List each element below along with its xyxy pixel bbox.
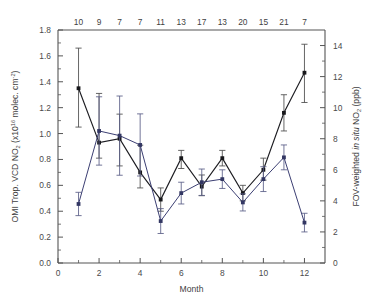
x-axis-ticklabel: 10 xyxy=(259,268,269,278)
series-omi-vcd-marker xyxy=(282,111,286,115)
series-insitu-ppb-marker xyxy=(241,201,245,205)
y-axis-left-ticklabel: 0.6 xyxy=(39,180,51,190)
x-axis-ticklabel: 6 xyxy=(179,268,184,278)
series-insitu-ppb-marker xyxy=(97,129,101,133)
series-insitu-ppb-marker xyxy=(220,177,224,181)
x-axis-ticklabel: 8 xyxy=(220,268,225,278)
y-axis-right-ticklabel: 0 xyxy=(333,258,338,268)
top-axis-count-label: 15 xyxy=(259,17,269,27)
series-insitu-ppb-marker xyxy=(118,134,122,138)
x-axis-title: Month xyxy=(180,284,204,294)
top-axis-count-label: 9 xyxy=(97,17,102,27)
series-insitu-ppb-marker xyxy=(282,155,286,159)
x-axis-ticklabel: 2 xyxy=(97,268,102,278)
series-omi-vcd-line xyxy=(79,73,305,200)
series-omi-vcd-marker xyxy=(77,86,81,90)
series-omi-vcd-marker xyxy=(159,198,163,202)
y-axis-right-ticklabel: 6 xyxy=(333,165,338,175)
top-axis-count-label: 13 xyxy=(218,17,228,27)
y-axis-right-title: FOV-weighted in situ NO2 (ppb) xyxy=(351,86,362,206)
top-axis-count-label: 7 xyxy=(302,17,307,27)
y-axis-right-ticklabel: 4 xyxy=(333,196,338,206)
top-axis-count-label: 10 xyxy=(74,17,84,27)
y-axis-left-ticklabel: 1.4 xyxy=(39,77,51,87)
series-insitu-ppb-line xyxy=(79,131,305,223)
y-axis-left-ticklabel: 1.2 xyxy=(39,103,51,113)
y-axis-left-ticklabel: 0.8 xyxy=(39,154,51,164)
series-insitu-ppb-marker xyxy=(261,177,265,181)
series-insitu-ppb-marker xyxy=(200,180,204,184)
series-insitu-ppb-marker xyxy=(138,143,142,147)
top-axis-count-label: 20 xyxy=(238,17,248,27)
series-omi-vcd-marker xyxy=(303,71,307,75)
y-axis-left-ticklabel: 1.8 xyxy=(39,25,51,35)
y-axis-left-ticklabel: 0.4 xyxy=(39,206,51,216)
series-insitu-ppb-marker xyxy=(159,219,163,223)
top-axis-count-label: 17 xyxy=(197,17,207,27)
y-axis-left-ticklabel: 1.6 xyxy=(39,51,51,61)
x-axis-ticklabel: 12 xyxy=(300,268,310,278)
series-omi-vcd-marker xyxy=(220,156,224,160)
series-insitu-ppb-marker xyxy=(179,191,183,195)
top-axis-count-label: 11 xyxy=(156,17,165,27)
y-axis-right-ticklabel: 12 xyxy=(333,72,343,82)
y-axis-left-ticklabel: 0.0 xyxy=(39,258,51,268)
y-axis-left-ticklabel: 0.2 xyxy=(39,232,51,242)
top-axis-count-label: 7 xyxy=(138,17,143,27)
series-omi-vcd-marker xyxy=(179,156,183,160)
x-axis-ticklabel: 4 xyxy=(138,268,143,278)
top-axis-count-label: 21 xyxy=(279,17,289,27)
top-axis-count-label: 7 xyxy=(117,17,122,27)
series-insitu-ppb-marker xyxy=(303,221,307,225)
top-axis-count-label: 13 xyxy=(177,17,187,27)
y-axis-left-ticklabel: 1.0 xyxy=(39,129,51,139)
y-axis-left-title: OMI Trop. VCD NO2 (x1016 molec. cm-2) xyxy=(10,70,21,222)
y-axis-right-ticklabel: 10 xyxy=(333,103,343,113)
chart-figure: 0.00.20.40.60.81.01.21.41.61.80246810121… xyxy=(0,0,374,302)
y-axis-right-ticklabel: 2 xyxy=(333,227,338,237)
y-axis-right-ticklabel: 14 xyxy=(333,41,343,51)
y-axis-right-ticklabel: 8 xyxy=(333,134,338,144)
dual-axis-line-chart: 0.00.20.40.60.81.01.21.41.61.80246810121… xyxy=(0,0,374,302)
series-insitu-ppb-marker xyxy=(77,202,81,206)
x-axis-ticklabel: 0 xyxy=(56,268,61,278)
